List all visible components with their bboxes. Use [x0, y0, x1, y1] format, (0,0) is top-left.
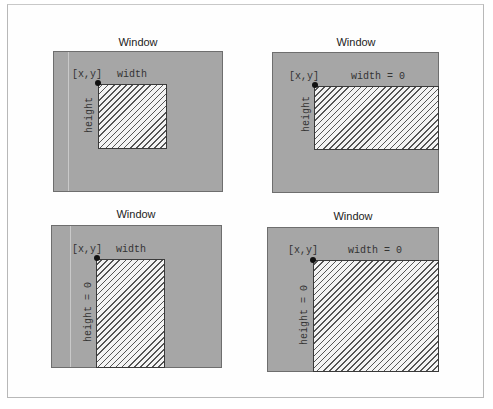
origin-point-icon: [95, 80, 101, 86]
width-label: width: [116, 244, 146, 255]
origin-label: [x,y]: [72, 244, 102, 255]
width-label: width: [117, 69, 147, 80]
height-label: height: [301, 96, 312, 132]
width-label: width = 0: [348, 245, 402, 256]
region-rect: [314, 86, 439, 150]
origin-point-icon: [94, 255, 100, 261]
height-label: height: [84, 97, 95, 133]
height-label: height = 0: [83, 282, 94, 342]
window-title: Window: [76, 208, 196, 220]
window-title: Window: [296, 36, 416, 48]
region-rect: [96, 259, 165, 368]
origin-label: [x,y]: [289, 71, 319, 82]
origin-point-icon: [312, 82, 318, 88]
scan-streak: [68, 52, 69, 191]
origin-label: [x,y]: [288, 245, 318, 256]
scan-streak: [70, 226, 71, 367]
origin-point-icon: [310, 257, 316, 263]
origin-label: [x,y]: [72, 69, 102, 80]
window-title: Window: [293, 210, 413, 222]
region-rect: [98, 84, 167, 149]
region-rect: [313, 260, 439, 372]
height-label: height = 0: [299, 285, 310, 345]
window-title: Window: [78, 36, 198, 48]
width-label: width = 0: [351, 71, 405, 82]
